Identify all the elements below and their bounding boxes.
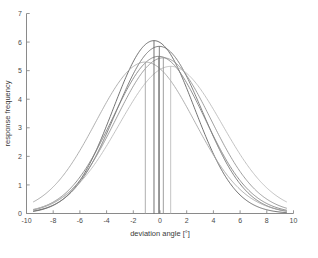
- y-tick-label: 7: [18, 10, 22, 17]
- y-tick-label: 0: [18, 210, 22, 217]
- x-tick-label: 10: [290, 217, 298, 224]
- y-tick-label: 2: [18, 153, 22, 160]
- x-tick-label: -2: [130, 217, 136, 224]
- x-tick-label: -10: [21, 217, 31, 224]
- y-tick-label: 3: [18, 124, 22, 131]
- x-tick-label: 6: [238, 217, 242, 224]
- x-tick-label: -6: [77, 217, 83, 224]
- gaussian-response-chart: -10-8-6-4-2024681001234567 deviation ang…: [0, 0, 318, 258]
- y-tick-label: 5: [18, 67, 22, 74]
- y-tick-label: 6: [18, 39, 22, 46]
- x-tick-label: 8: [265, 217, 269, 224]
- x-tick-label: 2: [185, 217, 189, 224]
- y-tick-label: 4: [18, 96, 22, 103]
- y-axis-title: response frequency: [3, 80, 12, 146]
- x-tick-label: 0: [158, 217, 162, 224]
- x-axis-title: deviation angle [°]: [130, 229, 190, 238]
- x-tick-label: 4: [211, 217, 215, 224]
- y-tick-label: 1: [18, 182, 22, 189]
- x-tick-label: -4: [103, 217, 109, 224]
- x-tick-label: -8: [50, 217, 56, 224]
- chart-figure: -10-8-6-4-2024681001234567 deviation ang…: [0, 0, 318, 258]
